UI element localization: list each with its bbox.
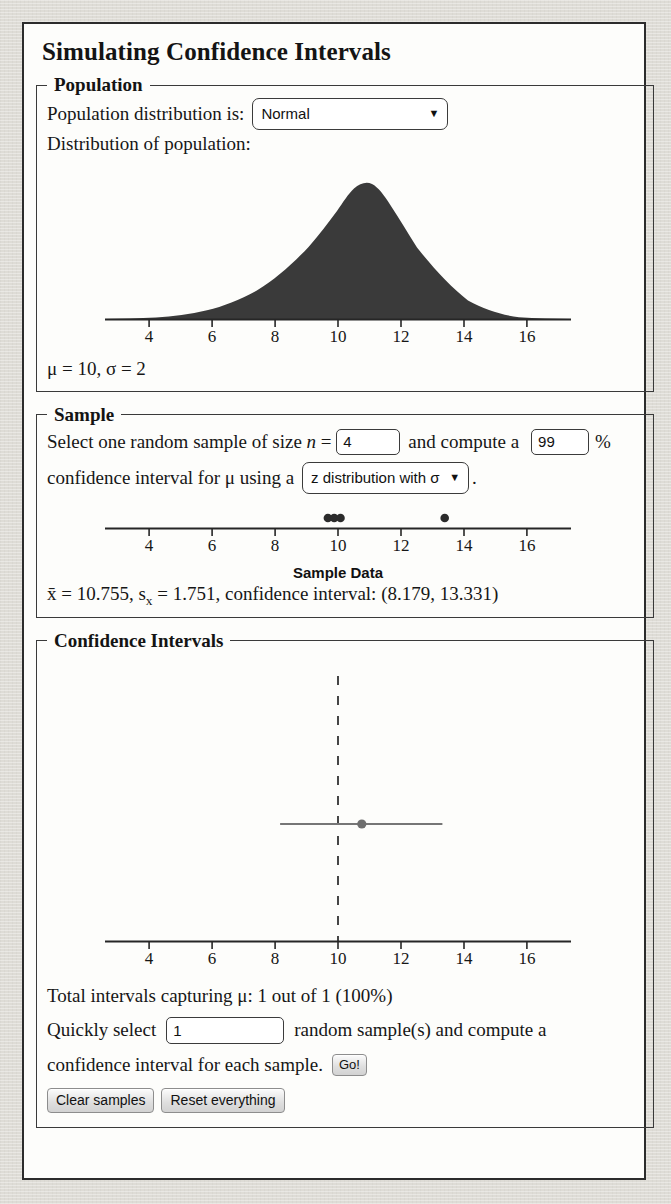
- sample-ci-text: confidence interval for μ using a: [47, 464, 294, 492]
- sample-tick-label: 6: [208, 536, 217, 556]
- ci-tick-label: 16: [519, 949, 536, 969]
- confidence-intervals-panel: Confidence Intervals: [36, 630, 654, 1129]
- population-distribution-select[interactable]: Normal ▼: [252, 98, 448, 130]
- distribution-method-select[interactable]: z distribution with σ ▼: [302, 462, 469, 494]
- sample-stats-part1: x̄ = 10.755, s: [47, 583, 146, 604]
- sample-tick-label: 4: [145, 536, 154, 556]
- ci-tick-label: 4: [145, 949, 154, 969]
- distribution-method-value: z distribution with σ: [311, 469, 439, 486]
- page-title: Simulating Confidence Intervals: [42, 38, 632, 66]
- sample-tick-label: 10: [330, 536, 347, 556]
- sample-statistics: x̄ = 10.755, sx = 1.751, confidence inte…: [47, 583, 643, 609]
- population-tick-label: 8: [271, 327, 280, 347]
- population-distribution-chart: 4 6 8 10 12 14 16: [47, 159, 643, 359]
- reset-everything-button[interactable]: Reset everything: [161, 1088, 284, 1114]
- ci-tick-label: 14: [456, 949, 473, 969]
- chevron-down-icon: ▼: [429, 106, 440, 122]
- population-curve-svg: [47, 159, 643, 334]
- population-dist-label: Population distribution is:: [47, 100, 244, 128]
- sample-tick-label: 12: [393, 536, 410, 556]
- app-card: Simulating Confidence Intervals Populati…: [22, 22, 646, 1180]
- go-button[interactable]: Go!: [332, 1054, 367, 1077]
- ci-tick-label: 8: [271, 949, 280, 969]
- confidence-intervals-svg: [47, 654, 643, 964]
- quick-sample-count-input[interactable]: [166, 1017, 284, 1044]
- sample-size-row: Select one random sample of size n = and…: [47, 428, 643, 456]
- population-parameters: μ = 10, σ = 2: [47, 355, 146, 383]
- population-tick-label: 10: [330, 327, 347, 347]
- clear-samples-button[interactable]: Clear samples: [47, 1088, 154, 1114]
- ci-tick-label: 6: [208, 949, 217, 969]
- sample-tick-label: 8: [271, 536, 280, 556]
- quick-select-after-label: random sample(s) and compute a: [294, 1016, 546, 1044]
- sample-size-input[interactable]: [336, 429, 400, 455]
- total-intervals-row: Total intervals capturing μ: 1 out of 1 …: [47, 982, 643, 1010]
- population-tick-label: 12: [393, 327, 410, 347]
- ci-tick-label: 10: [330, 949, 347, 969]
- population-plot-label-row: Distribution of population:: [47, 130, 643, 158]
- quick-select-line2-label: confidence interval for each sample.: [47, 1051, 323, 1079]
- sample-tick-label: 16: [519, 536, 536, 556]
- sample-legend: Sample: [47, 404, 121, 426]
- quick-select-row2: confidence interval for each sample. Go!: [47, 1051, 643, 1079]
- quick-select-row: Quickly select random sample(s) and comp…: [47, 1016, 643, 1044]
- sample-tick-label: 14: [456, 536, 473, 556]
- sample-method-row: confidence interval for μ using a z dist…: [47, 462, 643, 494]
- sample-n-symbol: n: [307, 428, 317, 456]
- sample-panel: Sample Select one random sample of size …: [36, 404, 654, 618]
- sample-stats-subscript: x: [146, 593, 153, 608]
- ci-tick-label: 12: [393, 949, 410, 969]
- action-buttons: Clear samples Reset everything: [47, 1088, 643, 1114]
- quick-select-label: Quickly select: [47, 1016, 156, 1044]
- population-tick-label: 16: [519, 327, 536, 347]
- sample-compute-text: and compute a: [408, 428, 519, 456]
- chevron-down-icon: ▼: [449, 470, 460, 486]
- population-tick-label: 4: [145, 327, 154, 347]
- population-distribution-value: Normal: [261, 105, 309, 122]
- population-dist-row: Population distribution is: Normal ▼: [47, 98, 643, 130]
- sample-period: .: [472, 464, 477, 492]
- sample-equals-text: =: [316, 428, 336, 456]
- population-legend: Population: [47, 74, 150, 96]
- population-tick-label: 14: [456, 327, 473, 347]
- total-intervals-text: Total intervals capturing μ: 1 out of 1 …: [47, 982, 393, 1010]
- population-plot-label: Distribution of population:: [47, 130, 251, 158]
- sample-select-text: Select one random sample of size: [47, 428, 307, 456]
- confidence-intervals-chart: 4 6 8 10 12 14 16: [47, 654, 643, 984]
- confidence-intervals-legend: Confidence Intervals: [47, 630, 230, 652]
- population-panel: Population Population distribution is: N…: [36, 74, 654, 392]
- population-params-row: μ = 10, σ = 2: [47, 355, 643, 383]
- population-tick-label: 6: [208, 327, 217, 347]
- sample-dotplot-chart: 4 6 8 10 12 14 16: [47, 504, 643, 570]
- percent-label: %: [595, 428, 611, 456]
- confidence-level-input[interactable]: [531, 429, 589, 455]
- sample-stats-part2: = 1.751, confidence interval: (8.179, 13…: [153, 583, 499, 604]
